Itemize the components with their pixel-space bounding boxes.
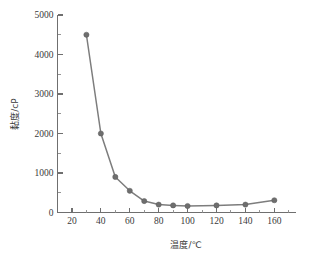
- y-tick-label: 5000: [35, 10, 54, 20]
- y-tick-label: 2000: [35, 129, 54, 139]
- data-point-marker: [142, 198, 147, 203]
- data-point-marker: [171, 203, 176, 208]
- y-tick-label: 4000: [35, 50, 54, 60]
- data-point-marker: [272, 198, 277, 203]
- x-axis-title: 温度/℃: [170, 239, 201, 250]
- data-point-marker: [156, 202, 161, 207]
- chart-figure: 010002000300040005000 204060801001201401…: [0, 0, 313, 257]
- x-tick-label: 160: [267, 216, 282, 226]
- y-tick-label: 3000: [35, 89, 54, 99]
- x-tick-label: 60: [125, 216, 135, 226]
- viscosity-temperature-line-chart: 010002000300040005000 204060801001201401…: [0, 0, 313, 257]
- data-point-marker: [98, 131, 103, 136]
- data-point-marker: [113, 174, 118, 179]
- data-point-marker: [214, 203, 219, 208]
- x-tick-label: 80: [154, 216, 164, 226]
- data-point-marker: [84, 32, 89, 37]
- x-tick-label: 20: [67, 216, 77, 226]
- data-point-marker: [185, 203, 190, 208]
- data-point-marker: [127, 188, 132, 193]
- data-point-marker: [243, 202, 248, 207]
- y-tick-label: 1000: [35, 168, 54, 178]
- x-tick-label: 140: [238, 216, 253, 226]
- x-tick-label: 120: [209, 216, 224, 226]
- y-axis-title: 黏度/cP: [9, 98, 20, 130]
- y-tick-label: 0: [49, 208, 54, 218]
- x-tick-label: 40: [96, 216, 106, 226]
- x-tick-label: 100: [180, 216, 195, 226]
